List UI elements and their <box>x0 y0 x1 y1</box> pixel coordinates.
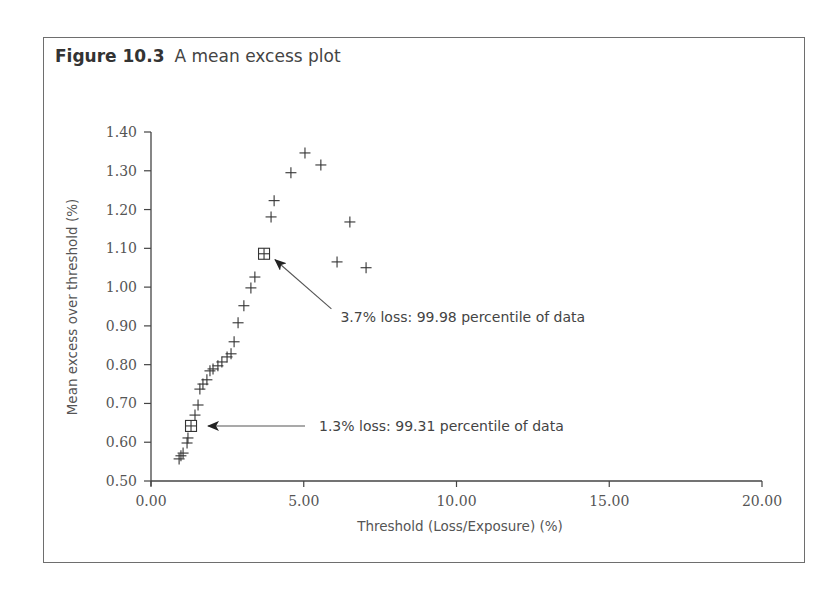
y-tick-label: 1.30 <box>106 163 137 179</box>
x-tick-label: 15.00 <box>589 493 629 509</box>
y-tick-label: 1.10 <box>106 240 137 256</box>
x-axis-label: Threshold (Loss/Exposure) (%) <box>356 518 563 534</box>
data-points <box>174 147 372 464</box>
annotation-label: 3.7% loss: 99.98 percentile of data <box>340 309 585 325</box>
y-tick-label: 1.20 <box>106 202 137 218</box>
x-tick-label: 10.00 <box>436 493 476 509</box>
y-tick-label: 1.40 <box>106 124 137 140</box>
y-tick-label: 0.80 <box>106 357 137 373</box>
y-tick-label: 1.00 <box>106 279 137 295</box>
x-tick-label: 20.00 <box>742 493 782 509</box>
x-tick-label: 5.00 <box>288 493 319 509</box>
y-tick-label: 0.60 <box>106 434 137 450</box>
y-tick-label: 0.70 <box>106 395 137 411</box>
annotation-arrow <box>275 260 331 309</box>
x-tick-label: 0.00 <box>135 493 166 509</box>
annotations: 1.3% loss: 99.31 percentile of data3.7% … <box>208 260 585 434</box>
y-axis-label: Mean excess over threshold (%) <box>64 199 80 416</box>
y-tick-label: 0.50 <box>106 473 137 489</box>
annotation-label: 1.3% loss: 99.31 percentile of data <box>319 418 564 434</box>
mean-excess-chart: 0.005.0010.0015.0020.000.500.600.700.800… <box>0 0 840 595</box>
y-tick-label: 0.90 <box>106 318 137 334</box>
